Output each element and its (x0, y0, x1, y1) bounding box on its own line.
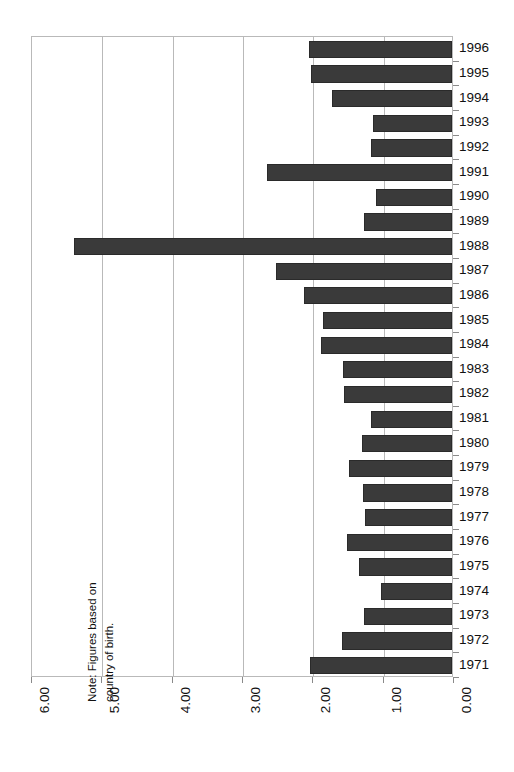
category-label: 1984 (459, 337, 511, 351)
category-label: 1972 (459, 633, 511, 647)
value-tick (172, 677, 173, 683)
bar (267, 164, 452, 181)
bar-row (32, 435, 452, 452)
value-tick (383, 677, 384, 683)
bar-row (32, 484, 452, 501)
category-label: 1994 (459, 91, 511, 105)
category-label: 1989 (459, 214, 511, 228)
value-label: 1.00 (390, 687, 404, 713)
value-tick (31, 677, 32, 683)
value-tick (312, 677, 313, 683)
bar-row (32, 139, 452, 156)
category-label: 1996 (459, 41, 511, 55)
bar-row (32, 90, 452, 107)
plot-area: Note: Figures based on country of birth. (31, 36, 453, 677)
bar (364, 213, 452, 230)
bar-row (32, 238, 452, 255)
bar (74, 238, 452, 255)
bar-row (32, 65, 452, 82)
bar (343, 361, 452, 378)
category-label: 1982 (459, 386, 511, 400)
bar (311, 65, 452, 82)
bar (276, 263, 452, 280)
bar (371, 139, 452, 156)
bar-row (32, 263, 452, 280)
bar-row (32, 41, 452, 58)
bar (359, 558, 452, 575)
category-label: 1986 (459, 288, 511, 302)
bar-row (32, 361, 452, 378)
category-label: 1987 (459, 263, 511, 277)
bar-row (32, 164, 452, 181)
bar-row (32, 115, 452, 132)
bar (376, 189, 452, 206)
bar-row (32, 337, 452, 354)
bar (381, 583, 452, 600)
bar (362, 435, 452, 452)
category-label: 1978 (459, 485, 511, 499)
bar (363, 484, 452, 501)
value-label: 0.00 (460, 687, 474, 713)
bar-chart: Note: Figures based on country of birth.… (0, 0, 514, 772)
bar-row (32, 534, 452, 551)
bar (364, 608, 452, 625)
bar-row (32, 213, 452, 230)
bar (371, 411, 452, 428)
bar (344, 386, 452, 403)
bar-row (32, 312, 452, 329)
value-tick (242, 677, 243, 683)
category-label: 1979 (459, 460, 511, 474)
bar-row (32, 386, 452, 403)
bar (365, 509, 452, 526)
value-tick (101, 677, 102, 683)
bar (304, 287, 452, 304)
bar (342, 632, 452, 649)
value-tick (453, 677, 454, 683)
category-label: 1980 (459, 436, 511, 450)
category-label: 1983 (459, 362, 511, 376)
value-label: 4.00 (179, 687, 193, 713)
bar (349, 460, 452, 477)
bar (321, 337, 452, 354)
bar (310, 657, 452, 674)
bar (323, 312, 452, 329)
category-label: 1985 (459, 313, 511, 327)
bar-row (32, 287, 452, 304)
category-axis-labels: 1996199519941993199219911990198919881987… (459, 36, 511, 677)
category-label: 1977 (459, 510, 511, 524)
bar-row (32, 460, 452, 477)
bar-row (32, 509, 452, 526)
category-label: 1974 (459, 584, 511, 598)
category-label: 1981 (459, 411, 511, 425)
value-label: 5.00 (108, 687, 122, 713)
category-label: 1990 (459, 189, 511, 203)
category-label: 1995 (459, 66, 511, 80)
category-label: 1973 (459, 608, 511, 622)
value-label: 6.00 (38, 687, 52, 713)
bar (373, 115, 452, 132)
bar (347, 534, 452, 551)
bar-row (32, 189, 452, 206)
category-label: 1993 (459, 115, 511, 129)
category-label: 1971 (459, 658, 511, 672)
category-label: 1976 (459, 534, 511, 548)
value-label: 2.00 (319, 687, 333, 713)
category-label: 1992 (459, 140, 511, 154)
value-label: 3.00 (249, 687, 263, 713)
category-label: 1975 (459, 559, 511, 573)
bar-row (32, 411, 452, 428)
category-label: 1991 (459, 165, 511, 179)
category-label: 1988 (459, 239, 511, 253)
bar (332, 90, 452, 107)
bar (309, 41, 452, 58)
